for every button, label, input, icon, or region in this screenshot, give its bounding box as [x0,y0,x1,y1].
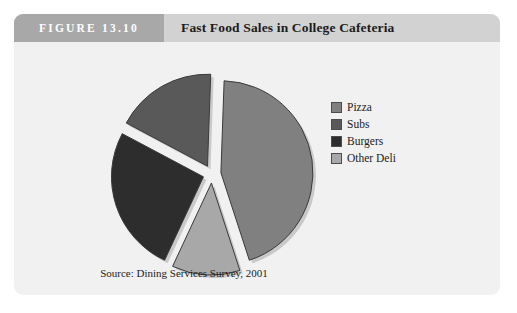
legend-swatch-burgers [331,136,342,147]
pie-slice-group [111,74,315,278]
chart-body: Pizza Subs Burgers Other Deli Source: Di… [14,42,500,295]
figure-header: FIGURE 13.10 Fast Food Sales in College … [14,14,500,42]
pie-slice-pizza[interactable] [221,81,313,260]
legend-item-burgers[interactable]: Burgers [331,133,396,149]
legend-swatch-pizza [331,102,342,113]
legend-item-subs[interactable]: Subs [331,116,396,132]
figure-card: FIGURE 13.10 Fast Food Sales in College … [14,14,500,295]
legend-item-other-deli[interactable]: Other Deli [331,150,396,166]
legend-label-other-deli: Other Deli [347,152,396,164]
figure-number-band: FIGURE 13.10 [14,14,164,42]
legend-swatch-subs [331,119,342,130]
legend-swatch-other-deli [331,153,342,164]
pie-chart [14,42,500,295]
legend-item-pizza[interactable]: Pizza [331,99,396,115]
figure-title-band: Fast Food Sales in College Cafeteria [164,14,500,42]
legend-label-burgers: Burgers [347,135,383,147]
figure-number-label: FIGURE 13.10 [39,22,139,34]
figure-title: Fast Food Sales in College Cafeteria [181,20,395,36]
source-note: Source: Dining Services Survey, 2001 [14,267,354,279]
legend-label-subs: Subs [347,118,369,130]
chart-legend: Pizza Subs Burgers Other Deli [331,99,396,167]
legend-label-pizza: Pizza [347,101,372,113]
